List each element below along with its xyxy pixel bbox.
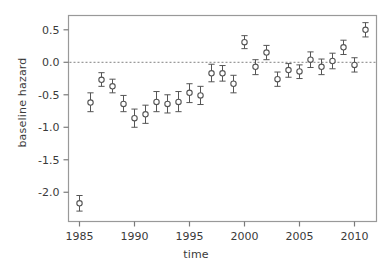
data-point-marker xyxy=(231,81,236,86)
chart-figure: 0.50.0-0.5-1.0-1.5-2.0198519901995200020… xyxy=(0,0,392,272)
data-point-group xyxy=(120,95,126,111)
y-axis-tick-label: -1.5 xyxy=(38,154,59,167)
data-point-marker xyxy=(253,64,258,69)
data-point-group xyxy=(296,65,302,79)
x-axis-tick-label: 2000 xyxy=(231,230,259,243)
data-point-marker xyxy=(242,39,247,44)
y-axis-tick-label: -2.0 xyxy=(38,186,59,199)
data-point-group xyxy=(98,73,104,87)
data-point-group xyxy=(318,59,324,75)
y-axis-label: baseline hazard xyxy=(16,43,29,163)
x-axis-tick-label: 2005 xyxy=(286,230,314,243)
x-axis-label: time xyxy=(0,248,392,261)
x-axis-tick-label: 2010 xyxy=(341,230,369,243)
data-point-marker xyxy=(319,64,324,69)
data-point-marker xyxy=(363,27,368,32)
y-axis-tick-label: -1.0 xyxy=(38,121,59,134)
data-point-marker xyxy=(297,69,302,74)
data-point-group xyxy=(131,109,137,127)
data-point-marker xyxy=(209,71,214,76)
data-point-group xyxy=(219,66,225,82)
data-point-group xyxy=(274,72,280,86)
data-point-marker xyxy=(198,93,203,98)
data-point-group xyxy=(142,105,148,123)
data-point-marker xyxy=(143,112,148,117)
plot-frame xyxy=(69,16,377,222)
data-point-group xyxy=(340,40,346,54)
data-point-group xyxy=(285,64,291,78)
data-point-marker xyxy=(77,201,82,206)
x-axis-tick-label: 1990 xyxy=(121,230,149,243)
data-point-marker xyxy=(132,115,137,120)
data-point-group xyxy=(87,93,93,112)
data-point-marker xyxy=(176,99,181,104)
data-point-marker xyxy=(308,57,313,62)
data-point-group xyxy=(241,36,247,49)
data-point-marker xyxy=(352,62,357,67)
data-point-marker xyxy=(187,90,192,95)
data-point-group xyxy=(362,23,368,37)
data-point-group xyxy=(329,53,335,69)
data-point-marker xyxy=(99,77,104,82)
data-point-marker xyxy=(341,45,346,50)
data-point-group xyxy=(109,79,115,93)
data-point-group xyxy=(175,92,181,112)
data-point-group xyxy=(197,86,203,104)
data-series xyxy=(76,23,368,211)
data-point-marker xyxy=(275,76,280,81)
data-point-marker xyxy=(330,58,335,63)
data-point-marker xyxy=(88,100,93,105)
data-point-group xyxy=(208,64,214,82)
data-point-marker xyxy=(121,101,126,106)
data-point-marker xyxy=(154,99,159,104)
y-axis-tick-label: 0.5 xyxy=(42,24,60,37)
data-point-group xyxy=(307,52,313,68)
x-axis-tick-label: 1985 xyxy=(66,230,94,243)
data-point-group xyxy=(351,58,357,72)
y-axis-tick-label: 0.0 xyxy=(42,56,60,69)
y-axis-tick-label: -0.5 xyxy=(38,89,59,102)
scatter-plot-svg: 0.50.0-0.5-1.0-1.5-2.0198519901995200020… xyxy=(0,0,392,272)
data-point-marker xyxy=(165,101,170,106)
data-point-group xyxy=(186,84,192,103)
data-point-group xyxy=(263,45,269,59)
x-axis-tick-label: 1995 xyxy=(176,230,204,243)
data-point-group xyxy=(164,95,170,113)
data-point-marker xyxy=(264,50,269,55)
data-point-marker xyxy=(286,67,291,72)
data-point-marker xyxy=(220,71,225,76)
data-point-group xyxy=(153,92,159,112)
data-point-group xyxy=(76,196,82,212)
data-point-group xyxy=(230,75,236,93)
data-point-marker xyxy=(110,84,115,89)
